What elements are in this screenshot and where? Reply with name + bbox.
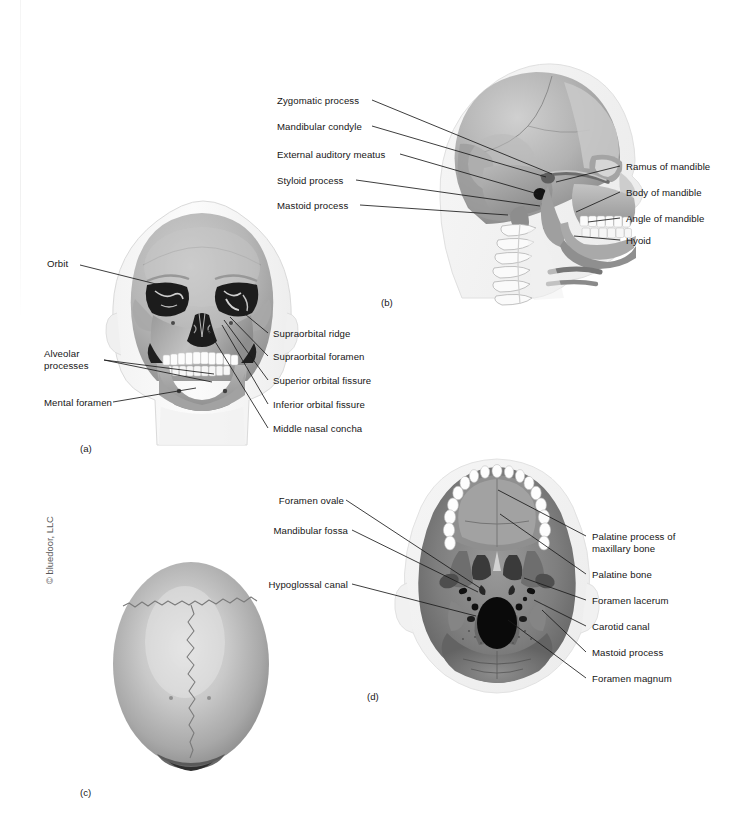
panel-letter-b: (b) <box>381 297 393 308</box>
label-d-palatine-bone: Palatine bone <box>592 569 652 581</box>
label-a-superior-orbital-fissure: Superior orbital fissure <box>273 375 371 387</box>
label-a-alveolar-processes: Alveolar processes <box>44 348 89 371</box>
label-a-supraorbital-ridge: Supraorbital ridge <box>273 328 350 340</box>
label-b-external-auditory-meatus: External auditory meatus <box>277 149 385 161</box>
label-d-mastoid-process: Mastoid process <box>592 647 663 659</box>
copyright-notice: © bluedoor, LLC <box>44 454 55 584</box>
skull-lateral-illustration <box>424 48 674 313</box>
label-b-hyoid: Hyoid <box>626 235 651 247</box>
label-d-foramen-lacerum: Foramen lacerum <box>592 595 669 607</box>
label-b-ramus-of-mandible: Ramus of mandible <box>626 161 710 173</box>
label-a-middle-nasal-concha: Middle nasal concha <box>273 423 362 435</box>
panel-letter-a: (a) <box>80 443 92 454</box>
skull-inferior-illustration <box>385 455 610 695</box>
figure-root: Orbit Alveolar processes Mental foramen … <box>0 0 747 840</box>
label-a-mental-foramen: Mental foramen <box>44 397 112 409</box>
panel-letter-d: (d) <box>367 691 379 702</box>
skull-anterior-illustration <box>95 195 310 450</box>
label-b-body-of-mandible: Body of mandible <box>626 187 702 199</box>
label-b-mastoid-process: Mastoid process <box>277 200 348 212</box>
label-a-inferior-orbital-fissure: Inferior orbital fissure <box>273 399 365 411</box>
label-b-mandibular-condyle: Mandibular condyle <box>277 121 362 133</box>
scan-artifact <box>20 0 21 320</box>
label-d-mandibular-fossa: Mandibular fossa <box>226 525 348 537</box>
label-d-carotid-canal: Carotid canal <box>592 621 650 633</box>
cranium-superior-illustration <box>105 558 277 778</box>
label-d-foramen-magnum: Foramen magnum <box>592 673 672 685</box>
label-b-angle-of-mandible: Angle of mandible <box>626 213 704 225</box>
label-b-styloid-process: Styloid process <box>277 175 344 187</box>
label-b-zygomatic-process: Zygomatic process <box>277 95 359 107</box>
label-a-orbit: Orbit <box>47 258 68 270</box>
label-d-hypoglossal-canal: Hypoglossal canal <box>220 579 348 591</box>
label-d-palatine-process-of-maxillary-bone: Palatine process of maxillary bone <box>592 531 675 554</box>
label-d-foramen-ovale: Foramen ovale <box>236 495 344 507</box>
label-a-supraorbital-foramen: Supraorbital foramen <box>273 351 365 363</box>
panel-letter-c: (c) <box>80 787 91 798</box>
